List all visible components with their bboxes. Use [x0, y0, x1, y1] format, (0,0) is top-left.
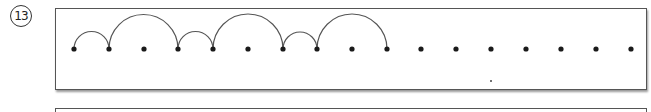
number-line-dot: [384, 46, 389, 51]
number-line-diagram: [0, 0, 651, 112]
number-line-dot: [314, 46, 319, 51]
jump-arc: [317, 14, 387, 49]
number-line-dot: [280, 46, 285, 51]
number-line-dot: [558, 46, 563, 51]
number-line-dot: [106, 46, 111, 51]
number-line-dot: [175, 46, 180, 51]
number-line-dot: [418, 46, 423, 51]
number-line-dot: [628, 46, 633, 51]
number-line-dot: [245, 46, 250, 51]
number-line-dot: [349, 46, 354, 51]
number-line-dot: [523, 46, 528, 51]
stray-mark: [490, 80, 492, 82]
jump-arc: [74, 32, 109, 50]
number-line-dot: [71, 46, 76, 51]
jump-arc: [283, 32, 317, 49]
number-line-dot: [488, 46, 493, 51]
number-line-dot: [593, 46, 598, 51]
jump-arc: [213, 14, 283, 49]
number-line-dot: [210, 46, 215, 51]
jump-arc: [178, 32, 213, 50]
number-line-dot: [453, 46, 458, 51]
jump-arc: [109, 15, 178, 50]
number-line-dot: [141, 46, 146, 51]
